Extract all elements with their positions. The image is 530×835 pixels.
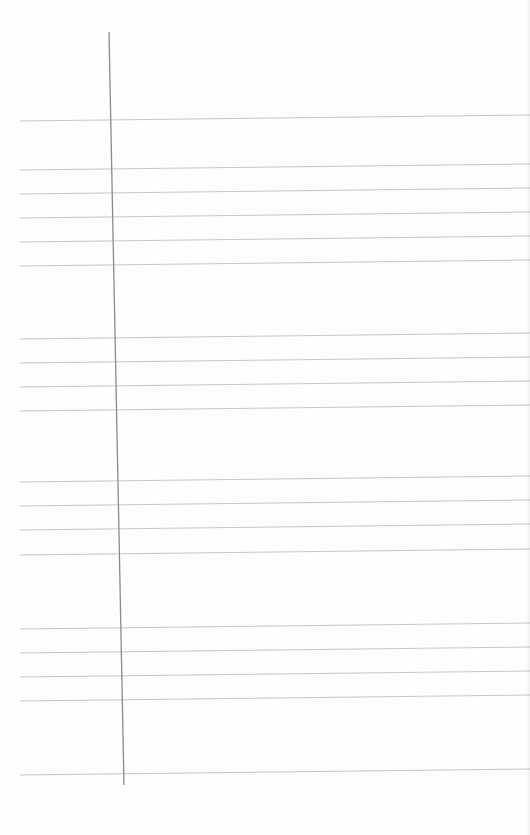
horizontal-rule bbox=[20, 524, 530, 530]
ruled-lines bbox=[0, 0, 530, 835]
horizontal-rules bbox=[20, 115, 530, 775]
horizontal-rule bbox=[20, 647, 530, 653]
horizontal-rule bbox=[20, 405, 530, 411]
horizontal-rule bbox=[20, 333, 530, 339]
horizontal-rule bbox=[20, 476, 530, 482]
horizontal-rule bbox=[20, 357, 530, 363]
horizontal-rule bbox=[20, 236, 530, 242]
horizontal-rule bbox=[20, 500, 530, 506]
horizontal-rule bbox=[20, 381, 530, 387]
horizontal-rule bbox=[20, 695, 530, 701]
horizontal-rule bbox=[20, 164, 530, 170]
horizontal-rule bbox=[20, 260, 530, 266]
horizontal-rule bbox=[20, 212, 530, 218]
horizontal-rule bbox=[20, 671, 530, 677]
horizontal-rule bbox=[20, 623, 530, 629]
horizontal-rule bbox=[20, 115, 530, 121]
horizontal-rule bbox=[20, 549, 530, 555]
horizontal-rule bbox=[20, 769, 530, 775]
ruled-page bbox=[0, 0, 530, 835]
horizontal-rule bbox=[20, 188, 530, 194]
margin-rule bbox=[109, 32, 124, 785]
